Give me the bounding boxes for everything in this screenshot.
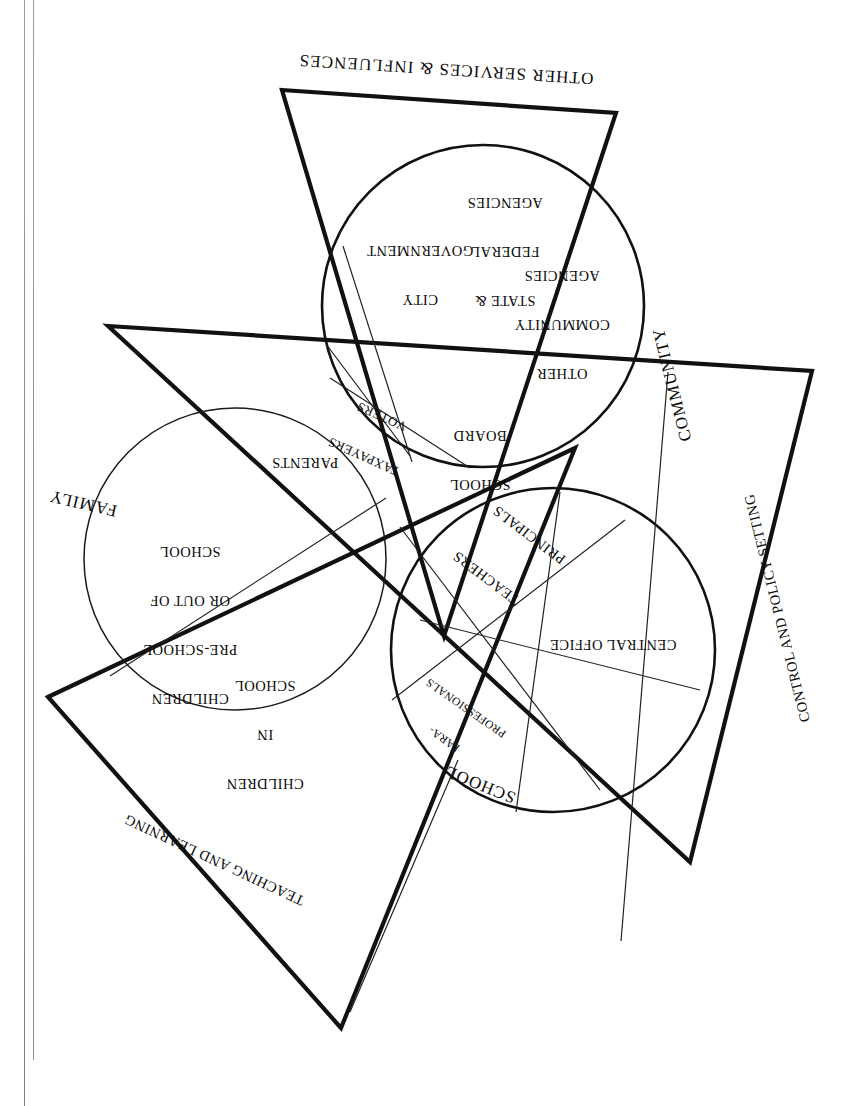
label-children-in-line3: SCHOOL <box>200 677 330 693</box>
label-voters: VOTERS <box>329 387 435 445</box>
label-state-federal-line3: AGENCIES <box>440 194 570 210</box>
label-children-in-line1: CHILDREN <box>200 775 330 791</box>
page-canvas: OTHER SERVICES & INFLUENCES CONTROL AND … <box>0 0 847 1106</box>
label-children-in-line2: IN <box>200 726 330 742</box>
label-children-pre-line3: OR OUT OF <box>120 593 260 609</box>
label-other-community-agencies: OTHER COMMUNITY AGENCIES <box>497 235 627 414</box>
label-parents: PARENTS <box>245 455 365 471</box>
label-school-board-line2: BOARD <box>425 427 535 443</box>
label-other-community-line2: COMMUNITY <box>497 316 627 332</box>
label-children-in-school: CHILDREN IN SCHOOL <box>200 645 330 824</box>
label-children-pre-line4: SCHOOL <box>120 544 260 560</box>
extension-line-school-tail <box>350 760 458 1012</box>
label-other-community-line1: OTHER <box>497 365 627 381</box>
label-central-office: CENTRAL OFFICE <box>528 637 698 653</box>
label-other-community-line3: AGENCIES <box>497 267 627 283</box>
extension-line-right <box>621 372 668 941</box>
